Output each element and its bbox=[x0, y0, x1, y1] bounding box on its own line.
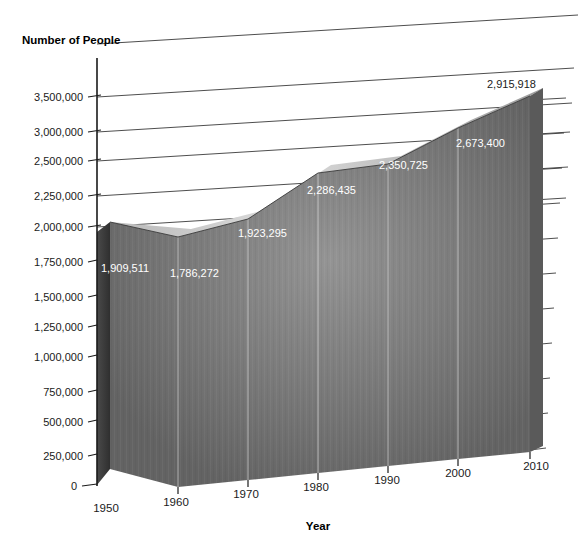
y-tick-label-250000: 250,000 bbox=[43, 450, 83, 462]
y-tick-label-0: 0 bbox=[71, 480, 77, 492]
data-label-2000: 2,673,400 bbox=[456, 137, 505, 149]
data-label-1980: 2,286,435 bbox=[307, 184, 356, 196]
y-tick-label-3500000: 3,500,000 bbox=[34, 91, 83, 103]
x-tick-label-1950: 1950 bbox=[93, 502, 119, 514]
y-tick-label-750000: 750,000 bbox=[43, 386, 83, 398]
x-tick-label-1990: 1990 bbox=[374, 474, 400, 486]
x-tick-label-1970: 1970 bbox=[233, 488, 259, 500]
area-right-side-face bbox=[530, 88, 543, 452]
y-tick-label-2500000: 2,500,000 bbox=[34, 155, 83, 167]
data-label-1960: 1,786,272 bbox=[170, 267, 219, 279]
y-tick-label-3000000: 3,000,000 bbox=[34, 126, 83, 138]
y-tick-label-1500000: 1,500,000 bbox=[34, 291, 83, 303]
x-tick-label-2000: 2000 bbox=[445, 467, 471, 479]
x-tick-label-2010: 2010 bbox=[523, 460, 549, 472]
population-area-chart: 3,500,000 3,000,000 2,500,000 2,250,000 … bbox=[0, 0, 582, 547]
y-tick-label-500000: 500,000 bbox=[43, 416, 83, 428]
data-label-1950: 1,909,511 bbox=[101, 262, 149, 274]
y-tick-label-1750000: 1,750,000 bbox=[34, 256, 83, 268]
y-tick-label-2000000: 2,000,000 bbox=[34, 221, 83, 233]
y-tick-label-2250000: 2,250,000 bbox=[34, 190, 83, 202]
data-label-1970: 1,923,295 bbox=[238, 227, 287, 239]
y-axis-title: Number of People bbox=[22, 34, 120, 46]
x-axis-title: Year bbox=[306, 520, 331, 532]
data-label-1990: 2,350,725 bbox=[379, 159, 428, 171]
x-tick-label-1960: 1960 bbox=[163, 496, 189, 508]
x-tick-label-1980: 1980 bbox=[303, 481, 329, 493]
y-tick-label-1000000: 1,000,000 bbox=[34, 351, 83, 363]
data-label-2010: 2,915,918 bbox=[487, 78, 536, 90]
y-tick-label-1250000: 1,250,000 bbox=[34, 321, 83, 333]
chart-container: 3,500,000 3,000,000 2,500,000 2,250,000 … bbox=[0, 0, 582, 547]
